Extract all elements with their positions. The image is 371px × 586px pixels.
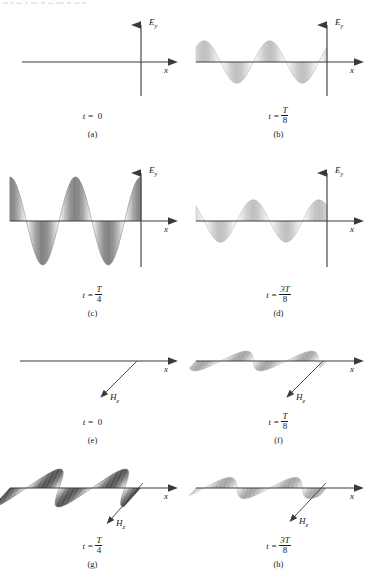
panel-h-x-axis-label: x (350, 492, 354, 501)
panel-b-x-axis-label: x (350, 66, 354, 75)
panel-d-x-axis-label: x (350, 225, 354, 234)
panel-a-letter: (a) (0, 130, 185, 139)
panel-e: x Hz t = 0 (e) (0, 330, 185, 416)
panel-d-e-axis-label: Ey (335, 166, 343, 177)
h-vector-arrow (292, 361, 323, 392)
panel-e-h-axis-label: Hz (110, 393, 119, 404)
panel-c-e-axis-label: Ey (149, 166, 157, 177)
panel-g-x-axis-label: x (164, 492, 168, 501)
panel-g-time-caption: t =T4 (0, 537, 185, 557)
panel-b-time-caption: t =T8 (186, 107, 371, 127)
panel-b-letter: (b) (186, 130, 371, 139)
panel-f-h-axis-label: Hz (296, 393, 305, 404)
panel-c-time-caption: t =T4 (0, 286, 185, 306)
panel-e-plot (0, 330, 185, 416)
panel-a-time-caption: t = 0 (0, 112, 185, 121)
panel-e-letter: (e) (0, 436, 185, 445)
panel-e-time-caption: t = 0 (0, 418, 185, 427)
scan-artifact (2, 1, 88, 8)
em-wave-figure: Ey x t = 0 (a) Ey x t =T8 (b) (0, 0, 371, 586)
panel-f-time-caption: t =T8 (186, 413, 371, 433)
panel-g-letter: (g) (0, 560, 185, 569)
panel-f: x Hz t =T8 (f) (186, 330, 371, 416)
panel-d-time-caption: t =3T8 (186, 286, 371, 306)
h-vector-arrow (106, 361, 137, 392)
panel-a: Ey x t = 0 (a) (0, 8, 185, 100)
panel-f-letter: (f) (186, 436, 371, 445)
panel-f-x-axis-label: x (350, 365, 354, 374)
panel-a-x-axis-label: x (164, 66, 168, 75)
panel-b-e-axis-label: Ey (335, 18, 343, 29)
panel-h-h-axis-label: Hz (299, 517, 308, 528)
panel-f-plot (186, 330, 371, 416)
panel-h-letter: (h) (186, 560, 371, 569)
panel-a-e-axis-label: Ey (149, 18, 157, 29)
panel-h-time-caption: t =3T8 (186, 537, 371, 557)
panel-c-x-axis-label: x (164, 225, 168, 234)
panel-b: Ey x t =T8 (b) (186, 8, 371, 100)
panel-e-x-axis-label: x (164, 365, 168, 374)
panel-g-h-axis-label: Hz (116, 519, 125, 530)
panel-c-letter: (c) (0, 309, 185, 318)
panel-h: x Hz t =3T8 (h) (186, 450, 371, 540)
panel-d-letter: (d) (186, 309, 371, 318)
panel-g: x Hz t =T4 (g) (0, 450, 185, 540)
panel-g-plot (0, 450, 185, 540)
panel-h-plot (186, 450, 371, 540)
panel-c: Ey x t =T4 (c) (0, 155, 185, 275)
panel-d: Ey x t =3T8 (d) (186, 155, 371, 275)
